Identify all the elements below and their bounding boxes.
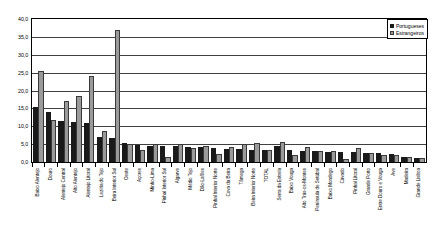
x-axis-label-text: Alentejo Central	[61, 168, 66, 200]
x-axis-label-text: Lezíria do Tejo	[100, 168, 105, 197]
x-axis-label-text: Baixo Mondego	[328, 168, 333, 199]
bar-estrangeiros	[115, 30, 120, 162]
bar-estrangeiros	[102, 131, 107, 162]
x-axis-label: Açores	[134, 167, 147, 239]
x-axis-label-text: Pinhal Litoral	[354, 168, 359, 194]
x-axis-label: Alentejo Central	[57, 167, 70, 239]
x-axis-label-text: Alto Alentejo	[74, 168, 79, 193]
bar-group	[223, 19, 236, 162]
bar-estrangeiros	[76, 96, 81, 162]
bar-group	[210, 19, 223, 162]
x-axis-label-text: Cova da Beira	[227, 168, 232, 196]
x-axis-label: Península de Setúbal	[311, 167, 324, 239]
x-axis-label-text: Madeira	[404, 168, 409, 184]
bar-estrangeiros	[178, 144, 183, 162]
x-axis-label-text: Tâmega	[239, 168, 244, 185]
x-axis-label-text: Península de Setúbal	[316, 168, 321, 211]
x-axis-label-text: Beira Interior Sul	[112, 168, 117, 201]
x-axis-label: Alto Trás-os-Montes	[299, 167, 312, 239]
legend-swatch-estrangeiros	[390, 31, 394, 35]
x-axis-label-text: Minho-Lima	[150, 168, 155, 192]
bar-group	[299, 19, 312, 162]
bar-group	[184, 19, 197, 162]
x-axis-label: Lezíria do Tejo	[96, 167, 109, 239]
bar-estrangeiros	[203, 146, 208, 162]
bar-estrangeiros	[254, 143, 259, 162]
bar-group	[413, 19, 426, 162]
x-axis-label: Grande Porto	[362, 167, 375, 239]
bar-estrangeiros	[305, 147, 310, 162]
bar-group	[350, 19, 363, 162]
bar-estrangeiros	[292, 155, 297, 163]
x-axis-label: Oeste	[121, 167, 134, 239]
x-axis-label: Beira Interior Norte	[248, 167, 261, 239]
bar-group	[108, 19, 121, 162]
bar-estrangeiros	[127, 144, 132, 162]
x-axis-label: Pinhal Litoral	[350, 167, 363, 239]
bar-estrangeiros	[38, 71, 43, 162]
bar-estrangeiros	[407, 157, 412, 162]
x-axis-label: Dão-Lafões	[197, 167, 210, 239]
x-axis-label-text: Grande Lisboa	[417, 168, 422, 198]
legend-label-portugueses: Portugueses	[396, 23, 424, 29]
bar-group	[159, 19, 172, 162]
bar-estrangeiros	[242, 144, 247, 162]
bar-estrangeiros	[140, 150, 145, 162]
x-axis-label: TOTAL	[261, 167, 274, 239]
bar-estrangeiros	[394, 155, 399, 162]
y-axis-tick-label: 5,0	[21, 141, 28, 147]
x-axis-label-text: Serra da Estrela	[277, 168, 282, 200]
x-axis-label: Pinhal Interior Sul	[159, 167, 172, 239]
x-axis-label: Baixo Alentejo	[32, 167, 45, 239]
x-axis-label: Alentejo Litoral	[83, 167, 96, 239]
bar-group	[83, 19, 96, 162]
bar-estrangeiros	[153, 144, 158, 162]
bar-group	[337, 19, 350, 162]
x-axis-label-text: Algarve	[176, 168, 181, 183]
x-axis-label-text: Alto Trás-os-Montes	[303, 168, 308, 208]
x-axis-label-text: Baixo Alentejo	[36, 168, 41, 196]
x-axis-label: Alto Alentejo	[70, 167, 83, 239]
bar-group	[375, 19, 388, 162]
x-axis-label-text: Baixo Vouga	[290, 168, 295, 193]
legend-label-estrangeiros: Estrangeiros	[396, 30, 424, 36]
x-axis-label: Algarve	[172, 167, 185, 239]
x-axis-label-text: Beira Interior Norte	[252, 168, 257, 206]
bar-group	[146, 19, 159, 162]
bar-group	[286, 19, 299, 162]
bar-estrangeiros	[229, 147, 234, 162]
x-axis-label-text: Douro	[49, 168, 54, 180]
y-axis-tick-label: 25,0	[18, 70, 28, 76]
x-axis-label: Serra da Estrela	[273, 167, 286, 239]
x-axis-label-text: Grande Porto	[366, 168, 371, 195]
bar-estrangeiros	[381, 155, 386, 162]
bar-group	[70, 19, 83, 162]
x-axis-label-text: Alentejo Litoral	[87, 168, 92, 198]
y-axis: 40,035,030,025,020,015,010,05,00,0	[0, 18, 30, 163]
legend-item-portugueses: Portugueses	[390, 22, 424, 29]
bar-estrangeiros	[331, 151, 336, 162]
x-axis-label-text: Cávado	[341, 168, 346, 184]
x-axis-label-text: Pinhal Interior Norte	[214, 168, 219, 208]
x-axis-label: Grande Lisboa	[413, 167, 426, 239]
y-axis-tick-label: 0,0	[21, 159, 28, 165]
x-axis-label: Beira Interior Sul	[108, 167, 121, 239]
bar-estrangeiros	[51, 120, 56, 162]
x-axis-label-text: Oeste	[125, 168, 130, 180]
bar-group	[388, 19, 401, 162]
bar-estrangeiros	[267, 150, 272, 162]
y-axis-tick-label: 30,0	[18, 52, 28, 58]
bar-group	[324, 19, 337, 162]
y-axis-tick-label: 20,0	[18, 88, 28, 94]
y-axis-tick-label: 40,0	[18, 16, 28, 22]
x-axis-label-text: Entre Douro e Vouga	[379, 168, 384, 210]
bar-chart: 40,035,030,025,020,015,010,05,00,0 Baixo…	[0, 0, 432, 239]
x-axis-label: Tâmega	[235, 167, 248, 239]
bar-estrangeiros	[89, 76, 94, 163]
bar-estrangeiros	[280, 142, 285, 162]
x-axis-label-text: Ave	[392, 168, 397, 176]
bar-group	[32, 19, 45, 162]
x-axis-label-text: Açores	[138, 168, 143, 182]
bar-estrangeiros	[356, 148, 361, 162]
bar-group	[57, 19, 70, 162]
